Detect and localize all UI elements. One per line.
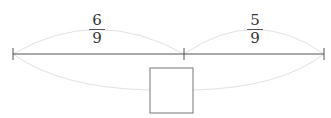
- answer-box[interactable]: [150, 68, 193, 113]
- fraction-label-right: 5 9: [245, 13, 265, 46]
- arc-bottom-left: [13, 54, 150, 90]
- numerator: 6: [87, 13, 107, 28]
- number-line-diagram: [0, 0, 331, 118]
- denominator: 9: [245, 31, 265, 46]
- arc-bottom-right: [193, 54, 324, 90]
- fraction-label-left: 6 9: [87, 13, 107, 46]
- denominator: 9: [87, 31, 107, 46]
- numerator: 5: [245, 13, 265, 28]
